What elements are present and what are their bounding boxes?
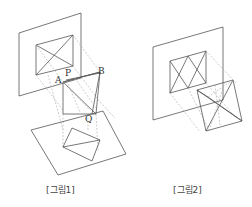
solid-body: [63, 72, 100, 114]
figure-1-caption: [그림1]: [46, 183, 75, 196]
label-B: B: [98, 66, 105, 76]
figure-2-caption: [그림2]: [173, 183, 202, 196]
label-Q: Q: [85, 114, 92, 124]
figure-2-drawing: [153, 27, 242, 132]
horizontal-plane: [31, 111, 126, 175]
vertical-plane: [19, 13, 81, 96]
figure-1-drawing: A P B Q: [19, 13, 126, 175]
vertical-plane-2: [153, 27, 223, 120]
label-A: A: [54, 75, 62, 85]
top-projection: [63, 128, 100, 161]
label-P: P: [65, 68, 71, 78]
projection-diagram: A P B Q: [0, 0, 252, 207]
front-projection-2: [170, 51, 206, 93]
